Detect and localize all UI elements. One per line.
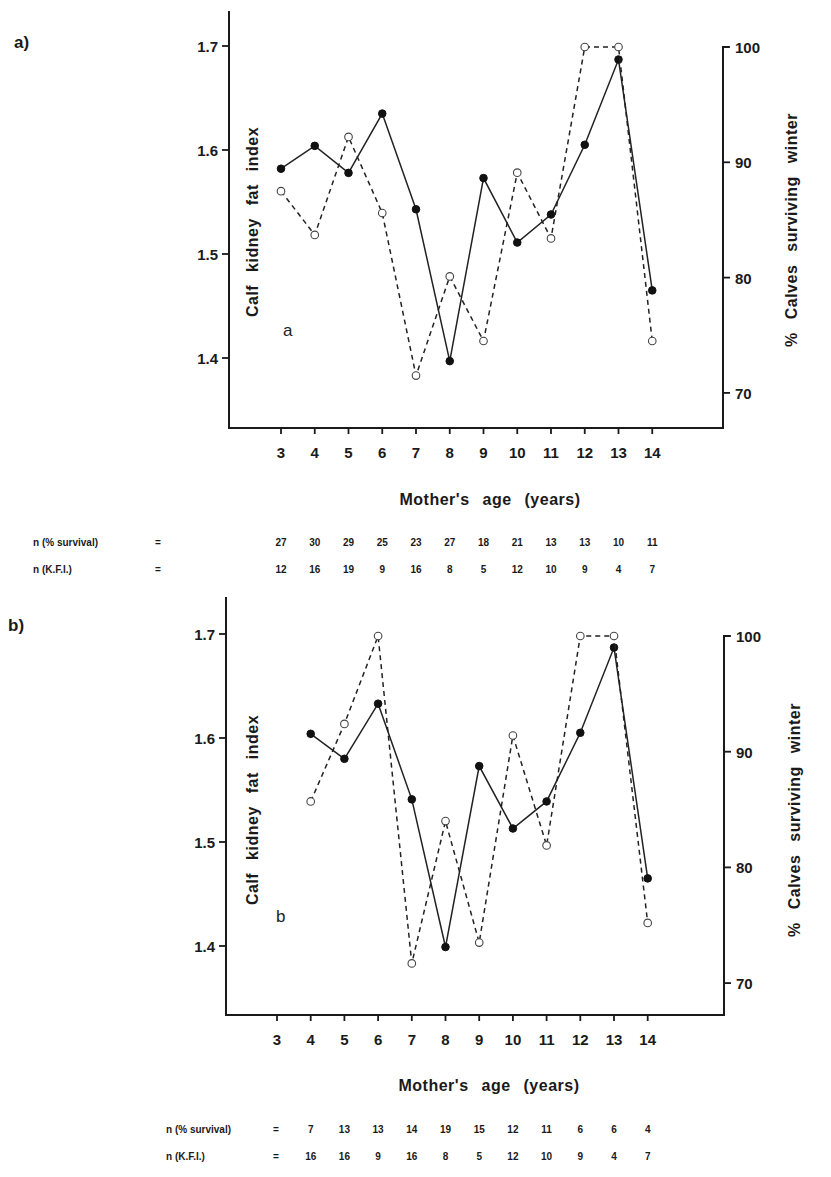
- x-tick-label: 13: [610, 444, 627, 461]
- survival-data-point: [442, 817, 450, 825]
- kfi-data-point: [412, 205, 420, 213]
- sample-size-value: 4: [645, 1124, 651, 1135]
- kfi-data-point: [615, 56, 623, 64]
- sample-size-value: 15: [474, 1124, 486, 1135]
- sample-size-value: 16: [305, 1151, 317, 1162]
- sample-size-value: 8: [447, 564, 453, 575]
- sample-size-value: 9: [582, 564, 588, 575]
- x-tick-label: 10: [505, 1031, 522, 1048]
- axes-frame: [229, 11, 729, 428]
- left-y-axis-label: Calf kidney fat index: [244, 715, 261, 905]
- right-y-tick-label: 100: [736, 628, 761, 645]
- survival-data-point: [509, 732, 517, 740]
- survival-data-point: [345, 133, 353, 141]
- kfi-data-point: [547, 211, 555, 219]
- sample-size-value: 12: [275, 564, 287, 575]
- sample-size-row: n (K.F.I.)=121619916851210947: [33, 564, 655, 575]
- x-tick-label: 3: [277, 444, 285, 461]
- sample-size-value: 7: [645, 1151, 651, 1162]
- kfi-data-point: [442, 943, 450, 951]
- survival-data-point: [446, 273, 454, 281]
- sample-size-value: 9: [578, 1151, 584, 1162]
- x-tick-label: 12: [572, 1031, 589, 1048]
- sample-size-value: 16: [406, 1151, 418, 1162]
- sample-size-value: 4: [611, 1151, 617, 1162]
- x-tick-label: 12: [576, 444, 593, 461]
- sample-size-value: 12: [512, 564, 524, 575]
- x-tick-label: 9: [475, 1031, 483, 1048]
- sample-size-row: n (K.F.I.)=1616916851210947: [166, 1151, 651, 1162]
- kfi-data-point: [446, 357, 454, 365]
- x-tick-label: 7: [412, 444, 420, 461]
- survival-data-point: [577, 632, 585, 640]
- kfi-data-point: [277, 165, 285, 173]
- sample-size-value: 7: [649, 564, 655, 575]
- sample-size-value: 21: [512, 537, 524, 548]
- sample-size-label: n (% survival): [33, 537, 98, 548]
- sample-size-value: 19: [343, 564, 355, 575]
- sample-size-label: n (% survival): [166, 1124, 231, 1135]
- left-y-tick-label: 1.4: [194, 938, 216, 955]
- survival-data-point: [644, 919, 652, 927]
- survival-percent-line: [281, 47, 652, 376]
- sample-size-value: 13: [545, 537, 557, 548]
- x-axis-label: Mother's age (years): [400, 491, 581, 508]
- sample-size-value: 13: [373, 1124, 385, 1135]
- kfi-data-point: [610, 644, 618, 652]
- kfi-data-point: [341, 755, 349, 763]
- kfi-data-point: [378, 110, 386, 118]
- kfi-data-point: [644, 875, 652, 883]
- kfi-data-point: [311, 142, 319, 150]
- sample-size-value: 23: [410, 537, 422, 548]
- x-tick-label: 6: [374, 1031, 382, 1048]
- sample-size-value: 14: [406, 1124, 418, 1135]
- kfi-data-point: [581, 141, 589, 149]
- panel-label: b): [8, 616, 24, 635]
- x-tick-label: 11: [543, 444, 559, 461]
- x-tick-label: 14: [639, 1031, 656, 1048]
- survival-data-point: [378, 209, 386, 217]
- survival-data-point: [311, 231, 319, 239]
- left-y-tick-label: 1.6: [197, 142, 218, 159]
- left-y-tick-label: 1.4: [197, 350, 219, 367]
- sample-size-value: 10: [613, 537, 625, 548]
- survival-data-point: [543, 842, 551, 850]
- sample-size-value: 5: [481, 564, 487, 575]
- panel-b: b)1.71.61.51.410090807034567891011121314…: [8, 597, 803, 1162]
- survival-data-point: [610, 632, 618, 640]
- sample-size-value: 19: [440, 1124, 452, 1135]
- kfi-data-point: [509, 825, 517, 833]
- right-y-axis-label: % Calves surviving winter: [786, 703, 803, 937]
- left-y-tick-label: 1.7: [194, 626, 215, 643]
- survival-data-point: [648, 337, 656, 345]
- x-tick-label: 3: [273, 1031, 281, 1048]
- survival-data-point: [581, 43, 589, 51]
- right-y-axis-label: % Calves surviving winter: [783, 113, 800, 347]
- survival-percent-line: [311, 636, 648, 963]
- sample-size-row: n (% survival)=713131419151211664: [166, 1124, 651, 1135]
- survival-data-point: [341, 720, 349, 728]
- kfi-data-point: [374, 700, 382, 708]
- survival-data-point: [307, 798, 315, 806]
- sample-size-value: 4: [616, 564, 622, 575]
- sample-size-value: 30: [309, 537, 321, 548]
- x-tick-label: 8: [446, 444, 454, 461]
- sample-size-value: 16: [410, 564, 422, 575]
- survival-data-point: [475, 939, 483, 947]
- sample-size-value: 13: [339, 1124, 351, 1135]
- kfi-data-point: [648, 287, 656, 295]
- sample-size-row: n (% survival)=273029252327182113131011: [33, 537, 658, 548]
- equals-sign: =: [273, 1151, 279, 1162]
- panel-a: a)1.71.61.51.410090807034567891011121314…: [14, 11, 800, 575]
- sample-size-value: 29: [343, 537, 355, 548]
- panel-label: a): [14, 33, 29, 52]
- survival-data-point: [615, 43, 623, 51]
- left-y-tick-label: 1.7: [197, 38, 218, 55]
- equals-sign: =: [273, 1124, 279, 1135]
- right-y-tick-label: 90: [735, 154, 752, 171]
- x-tick-label: 10: [509, 444, 526, 461]
- x-tick-label: 7: [408, 1031, 416, 1048]
- x-tick-label: 5: [344, 444, 352, 461]
- survival-data-point: [408, 960, 416, 968]
- sample-size-value: 13: [579, 537, 591, 548]
